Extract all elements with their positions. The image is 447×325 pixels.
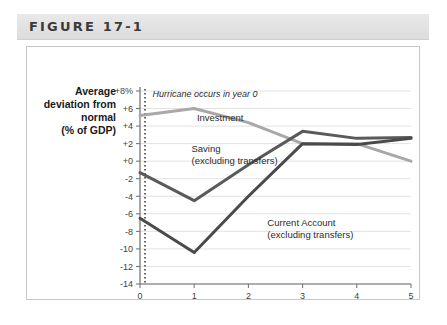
series-label: Current Account: [267, 217, 335, 228]
y-tick-label: -10: [120, 244, 133, 254]
series-label: (excluding transfers): [191, 155, 277, 166]
chart-annotation: Hurricane occurs in year 0: [153, 89, 258, 99]
y-axis-title: Averagedeviation fromnormal(% of GDP): [44, 85, 116, 136]
y-tick-label: -2: [125, 174, 133, 184]
y-tick-label: +2: [123, 139, 133, 149]
figure-title-bar: FIGURE 17-1: [17, 14, 429, 40]
y-axis-title-line: Average: [75, 85, 116, 97]
y-tick-marks-group: [136, 91, 140, 284]
figure-card: FIGURE 17-1 +8%+6+4+2+0-2-4-6-8-10-12-14…: [17, 14, 429, 309]
y-axis-title-line: (% of GDP): [61, 124, 116, 136]
x-tick-label: 1: [192, 291, 197, 299]
gridlines-group: [140, 91, 411, 284]
y-tick-label: -4: [125, 192, 133, 202]
x-tick-label: 2: [246, 291, 251, 299]
y-tick-label: -12: [120, 262, 133, 272]
y-tick-label: +6: [123, 104, 133, 114]
y-axis-title-line: deviation from: [44, 98, 116, 110]
annotations-group: Hurricane occurs in year 0: [153, 89, 258, 99]
x-tick-label: 3: [300, 291, 305, 299]
series-line: [140, 109, 411, 162]
y-tick-label: +4: [123, 121, 133, 131]
x-tick-label: 0: [137, 291, 142, 299]
y-tick-labels-group: +8%+6+4+2+0-2-4-6-8-10-12-14: [115, 86, 133, 289]
x-tick-labels-group: 012345: [137, 291, 413, 299]
y-axis-title-line: normal: [81, 111, 116, 123]
series-label: Saving: [191, 143, 220, 154]
chart-plot-frame: +8%+6+4+2+0-2-4-6-8-10-12-14 012345 Inve…: [26, 46, 420, 300]
x-tick-label: 4: [354, 291, 359, 299]
figure-title: FIGURE 17-1: [29, 19, 144, 34]
y-tick-label: -6: [125, 209, 133, 219]
x-tick-label: 5: [408, 291, 413, 299]
line-chart: +8%+6+4+2+0-2-4-6-8-10-12-14 012345 Inve…: [27, 47, 419, 299]
y-tick-label: +8%: [115, 86, 133, 96]
y-tick-label: +0: [123, 156, 133, 166]
series-label: (excluding transfers): [267, 229, 353, 240]
y-tick-label: -14: [120, 279, 133, 289]
x-tick-marks-group: [140, 284, 411, 288]
y-tick-label: -8: [125, 227, 133, 237]
series-label: Investment: [197, 112, 244, 123]
